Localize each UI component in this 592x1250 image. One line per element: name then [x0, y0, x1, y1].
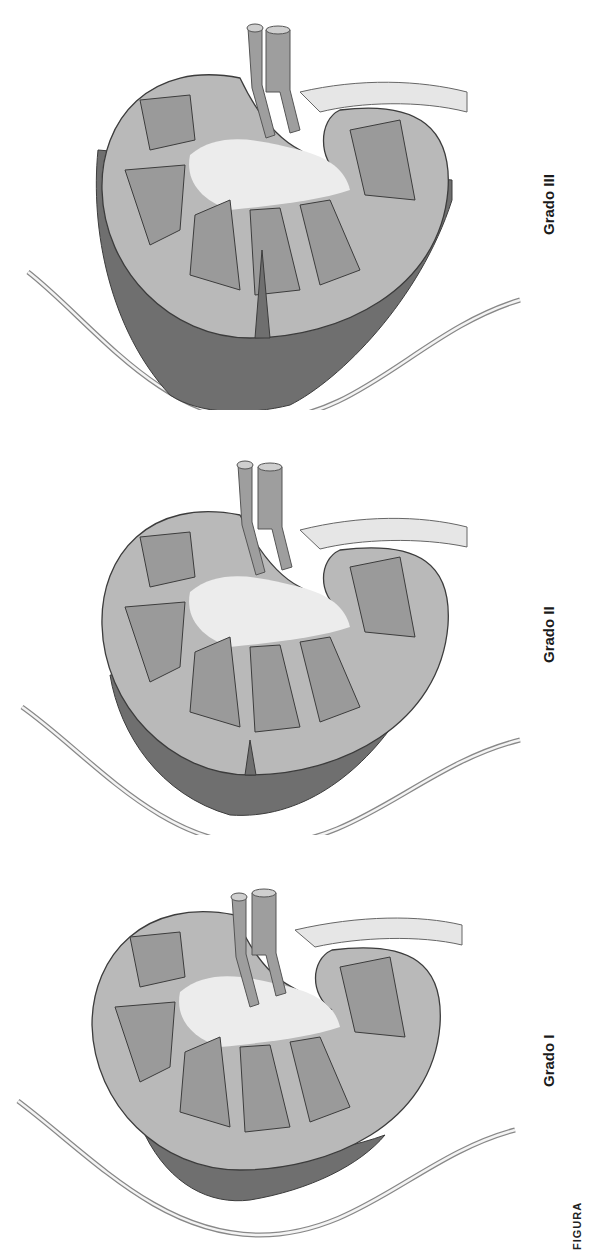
panel-label: Grado III — [540, 174, 557, 235]
panel-grade-1: Grado I — [0, 835, 592, 1250]
panel-label: Grado II — [540, 606, 557, 663]
figure-caption: FIGURA — [571, 1202, 583, 1250]
panel-grade-3: Grado III — [0, 0, 592, 410]
panel-label: Grado I — [540, 1034, 557, 1087]
panel-grade-2: Grado II — [0, 415, 592, 835]
kidney-illustration-grade-3 — [0, 0, 592, 410]
kidney-illustration-grade-1 — [0, 835, 592, 1250]
kidney-illustration-grade-2 — [0, 415, 592, 835]
